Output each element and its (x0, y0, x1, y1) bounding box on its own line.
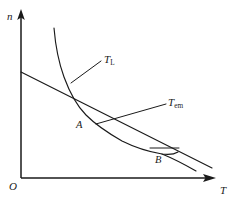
load-torque-curve (54, 28, 178, 154)
y-axis-label: n (7, 11, 13, 22)
x-axis-label: T (220, 185, 226, 196)
load-torque-curve-label: TL (104, 54, 115, 65)
point-a-label: A (76, 120, 82, 131)
electromagnetic-torque-line (21, 72, 212, 168)
load-torque-leader-line (71, 61, 101, 83)
load-torque-curve-tail (162, 154, 196, 171)
electromagnetic-torque-label-subscript: em (174, 102, 183, 110)
origin-label: O (9, 181, 17, 192)
figure-container: n T O A B TL Tem (0, 0, 234, 205)
point-b-label: B (155, 155, 161, 166)
speed-torque-diagram (0, 0, 234, 205)
electromagnetic-torque-leader-line (96, 104, 166, 124)
electromagnetic-torque-curve-label: Tem (168, 97, 183, 108)
load-torque-label-subscript: L (110, 59, 115, 67)
